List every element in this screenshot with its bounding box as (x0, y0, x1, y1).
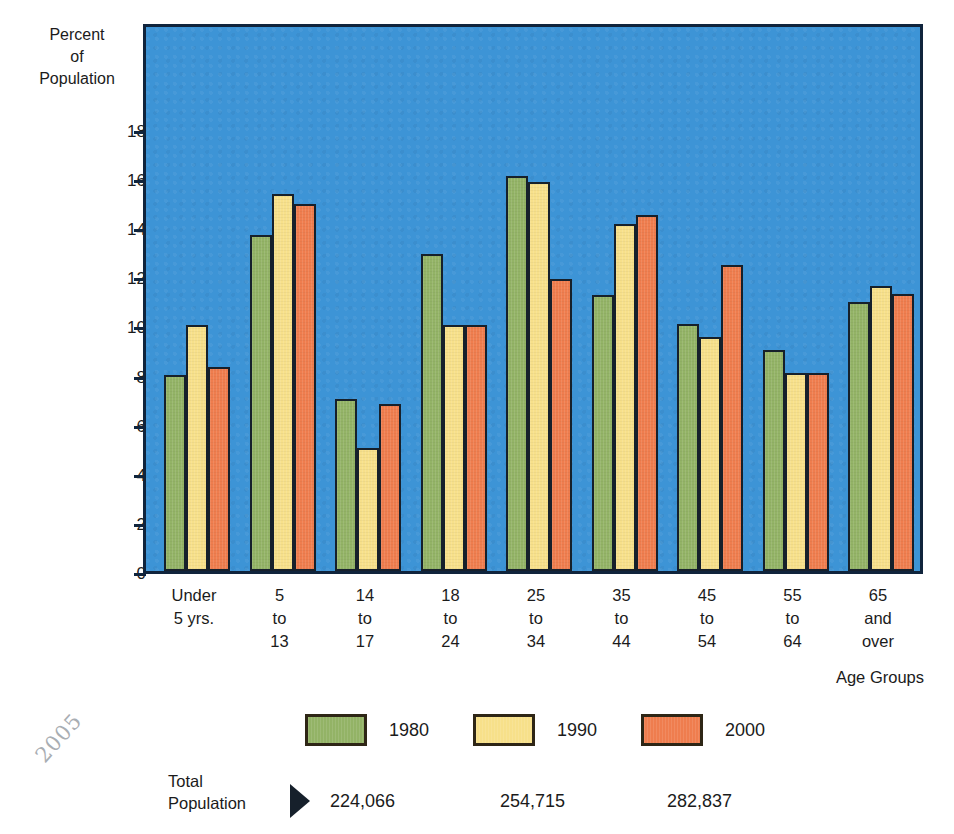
y-tick-label-14: 14 (96, 221, 146, 238)
legend-label-2000: 2000 (725, 720, 765, 741)
bar-2000-group-2 (294, 204, 316, 571)
bar-texture (594, 297, 612, 569)
bar-1980-group-7 (677, 324, 699, 571)
bar-1980-group-2 (250, 235, 272, 571)
legend-swatch-texture (476, 717, 532, 743)
y-tick-label-12: 12 (96, 270, 146, 287)
bar-1990-group-9 (870, 286, 892, 571)
bar-1980-group-4 (421, 254, 443, 571)
bar-texture (638, 217, 656, 569)
y-tick-label-4: 4 (96, 467, 146, 484)
bar-1990-group-4 (443, 325, 465, 571)
x-axis-category-labels: Under 5 yrs.5 to 1314 to 1718 to 2425 to… (0, 584, 954, 664)
right-triangle-arrow-icon (290, 784, 310, 818)
bar-texture (530, 184, 548, 569)
bar-texture (252, 237, 270, 569)
bar-texture (166, 377, 184, 569)
bar-2000-group-8 (807, 373, 829, 571)
legend-swatch-1980 (305, 714, 367, 746)
bar-texture (210, 369, 228, 569)
bar-2000-group-9 (892, 294, 914, 571)
bar-texture (467, 327, 485, 569)
y-tick-label-8: 8 (96, 369, 146, 386)
bar-1990-group-5 (528, 182, 550, 571)
bar-1980-group-3 (335, 399, 357, 571)
legend-swatch-texture (644, 717, 700, 743)
bar-texture (787, 375, 805, 569)
bar-1990-group-1 (186, 325, 208, 571)
y-tick-label-2: 2 (96, 516, 146, 533)
legend-swatch-1990 (473, 714, 535, 746)
bar-texture (701, 339, 719, 570)
bar-texture (359, 450, 377, 569)
bar-1990-group-7 (699, 337, 721, 572)
bar-1980-group-1 (164, 375, 186, 571)
y-tick-label-10: 10 (96, 319, 146, 336)
total-population-value-2000: 282,837 (667, 791, 732, 812)
y-tick-label-16: 16 (96, 172, 146, 189)
y-tick-label-6: 6 (96, 418, 146, 435)
bar-2000-group-1 (208, 367, 230, 571)
bar-texture (616, 226, 634, 569)
bar-texture (296, 206, 314, 569)
bar-texture (723, 267, 741, 569)
chart-plot-area (143, 24, 923, 574)
bar-2000-group-7 (721, 265, 743, 571)
bar-2000-group-5 (550, 279, 572, 571)
total-population-value-1980: 224,066 (330, 791, 395, 812)
bar-texture (850, 304, 868, 569)
x-category-label-9: 65 and over (828, 584, 928, 653)
legend-item-2000[interactable]: 2000 (641, 714, 765, 746)
y-tick-label-0: 0 (96, 565, 146, 582)
y-axis-title: Percent of Population (18, 24, 136, 90)
bar-1990-group-3 (357, 448, 379, 571)
legend-swatch-texture (308, 717, 364, 743)
legend-item-1990[interactable]: 1990 (473, 714, 597, 746)
bar-texture (765, 352, 783, 569)
y-tick-label-18: 18 (96, 123, 146, 140)
bar-1990-group-8 (785, 373, 807, 571)
bar-texture (679, 326, 697, 569)
x-axis-title: Age Groups (836, 668, 924, 687)
bar-1990-group-2 (272, 194, 294, 571)
total-population-value-1990: 254,715 (500, 791, 565, 812)
bar-texture (381, 406, 399, 569)
bar-1980-group-5 (506, 176, 528, 571)
chart-legend: 198019902000 (0, 714, 954, 762)
bar-texture (809, 375, 827, 569)
bar-texture (188, 327, 206, 569)
bar-texture (872, 288, 890, 569)
bar-texture (894, 296, 912, 569)
bars-layer (146, 27, 920, 571)
bar-1980-group-9 (848, 302, 870, 571)
bar-texture (274, 196, 292, 569)
legend-label-1990: 1990 (557, 720, 597, 741)
total-population-label: Total Population (168, 770, 246, 814)
bar-texture (337, 401, 355, 569)
legend-item-1980[interactable]: 1980 (305, 714, 429, 746)
bar-texture (508, 178, 526, 569)
bar-2000-group-6 (636, 215, 658, 571)
bar-texture (552, 281, 570, 569)
bar-texture (445, 327, 463, 569)
bar-2000-group-3 (379, 404, 401, 571)
bar-2000-group-4 (465, 325, 487, 571)
bar-1980-group-8 (763, 350, 785, 571)
bar-texture (423, 256, 441, 569)
total-population-row: Total Population 224,066254,715282,837 (0, 770, 954, 830)
legend-swatch-2000 (641, 714, 703, 746)
bar-1980-group-6 (592, 295, 614, 571)
bar-1990-group-6 (614, 224, 636, 571)
legend-label-1980: 1980 (389, 720, 429, 741)
